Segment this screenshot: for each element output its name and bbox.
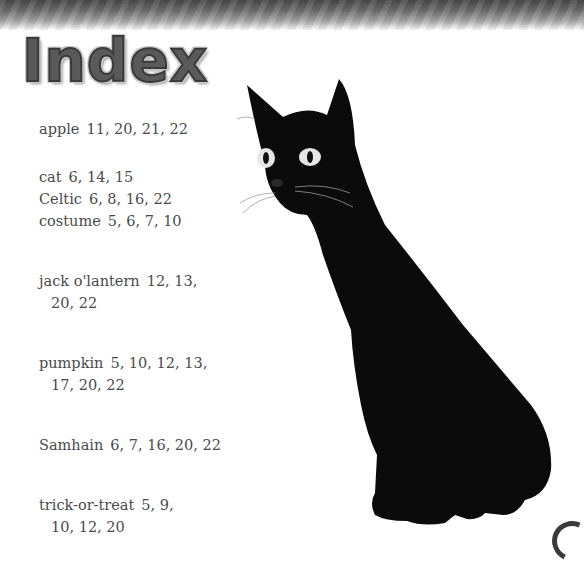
index-list: apple11, 20, 21, 22 cat6, 14, 15 Celtic6…: [39, 118, 239, 538]
black-cat-photo: [235, 75, 565, 535]
page-numbers: 6, 14, 15: [69, 169, 134, 185]
index-term: Celtic: [39, 191, 82, 207]
index-term: apple: [39, 121, 79, 137]
index-term: trick-or-treat: [39, 497, 134, 513]
decorative-header-band: [0, 0, 584, 30]
index-entry-jack-olantern: jack o'lantern12, 13, 20, 22: [39, 270, 201, 314]
index-term: Samhain: [39, 437, 103, 453]
page-numbers: 6, 8, 16, 22: [89, 191, 172, 207]
page-numbers: 11, 20, 21, 22: [86, 121, 187, 137]
index-term: jack o'lantern: [39, 273, 140, 289]
page-title: Index: [22, 32, 208, 90]
index-term: cat: [39, 169, 62, 185]
index-entry-trick-or-treat: trick-or-treat5, 9, 10, 12, 20: [39, 494, 201, 538]
index-term: costume: [39, 213, 101, 229]
black-cat-icon: [235, 75, 565, 535]
index-entry-cat: cat6, 14, 15: [39, 166, 239, 188]
index-entry-celtic: Celtic6, 8, 16, 22: [39, 188, 239, 210]
page-numbers: 5, 6, 7, 10: [108, 213, 182, 229]
index-entry-apple: apple11, 20, 21, 22: [39, 118, 239, 140]
index-term: pumpkin: [39, 355, 103, 371]
page-numbers: 6, 7, 16, 20, 22: [110, 437, 221, 453]
index-entry-samhain: Samhain6, 7, 16, 20, 22: [39, 434, 251, 456]
index-entry-costume: costume5, 6, 7, 10: [39, 210, 239, 232]
index-entry-pumpkin: pumpkin5, 10, 12, 13, 17, 20, 22: [39, 352, 216, 396]
